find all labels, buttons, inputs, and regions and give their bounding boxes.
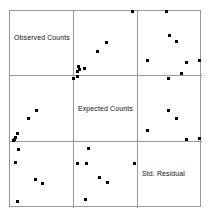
scatter-point xyxy=(131,10,134,13)
scatter-point xyxy=(105,41,108,44)
scatterplot-matrix-figure: Observed Counts xyxy=(0,0,209,217)
scatter-point xyxy=(34,178,37,181)
matrix-cell-observed-residual xyxy=(138,11,202,76)
scatter-point xyxy=(167,109,170,112)
scatter-point xyxy=(133,162,136,165)
matrix-cell-observed-observed: Observed Counts xyxy=(10,11,74,76)
matrix-cell-residual-residual: Std. Residual xyxy=(138,142,202,208)
scatter-point xyxy=(146,59,149,62)
scatter-point xyxy=(198,59,201,62)
scatter-point xyxy=(96,50,99,53)
scatter-point xyxy=(167,77,170,80)
scatter-point xyxy=(84,198,87,201)
scatter-point xyxy=(180,72,183,75)
scatter-point xyxy=(27,117,30,120)
scatter-point xyxy=(17,148,20,151)
scatter-point xyxy=(165,10,168,13)
scatter-point xyxy=(185,138,188,141)
matrix-cell-residual-expected xyxy=(74,142,138,208)
diagonal-label-observed-counts: Observed Counts xyxy=(14,34,70,42)
scatter-point xyxy=(146,129,149,132)
matrix-frame: Observed Counts xyxy=(9,10,201,207)
scatter-point xyxy=(14,161,17,164)
scatter-point xyxy=(76,162,79,165)
scatter-point xyxy=(168,34,171,37)
matrix-cell-expected-expected: Expected Counts xyxy=(74,76,138,142)
scatter-point xyxy=(41,182,44,185)
diagonal-label-std-residual: Std. Residual xyxy=(142,170,185,178)
scatter-point xyxy=(16,132,19,135)
scatter-point xyxy=(77,65,80,68)
scatter-point xyxy=(35,109,38,112)
scatter-point xyxy=(98,176,101,179)
matrix-cell-observed-expected xyxy=(74,11,138,76)
diagonal-label-expected-counts: Expected Counts xyxy=(78,105,133,113)
scatter-point xyxy=(198,137,201,140)
matrix-cell-expected-observed xyxy=(10,76,74,142)
scatter-point xyxy=(175,117,178,120)
matrix-cell-residual-observed xyxy=(10,142,74,208)
scatter-point xyxy=(85,162,88,165)
scatter-point xyxy=(78,68,81,71)
scatter-point xyxy=(106,181,109,184)
scatter-point xyxy=(175,40,178,43)
scatter-point xyxy=(83,67,86,70)
scatter-point xyxy=(16,200,19,203)
scatter-point xyxy=(185,61,188,64)
scatter-point xyxy=(87,147,90,150)
matrix-cell-expected-residual xyxy=(138,76,202,142)
